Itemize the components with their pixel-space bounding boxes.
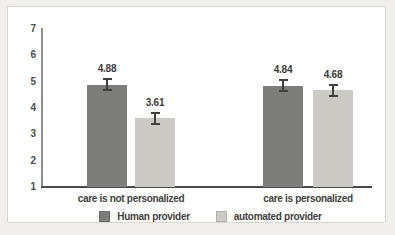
y-axis-tick-label: 4 <box>12 101 36 115</box>
error-bar <box>279 79 288 92</box>
legend-label: Human provider <box>117 211 189 222</box>
bar-value-label: 3.61 <box>133 97 177 108</box>
y-axis-tick-label: 3 <box>12 127 36 141</box>
y-axis-tick-label: 5 <box>12 75 36 89</box>
x-axis-category-label: care is personalized <box>218 193 395 204</box>
bar-value-label: 4.68 <box>311 69 355 80</box>
legend-label: automated provider <box>234 211 322 222</box>
bar-automated-provider-group1 <box>135 118 175 187</box>
error-bar <box>151 112 160 125</box>
bar-value-label: 4.84 <box>261 64 305 75</box>
error-bar <box>329 84 338 97</box>
y-axis-line <box>41 28 43 188</box>
y-axis-tick-label: 2 <box>12 154 36 168</box>
bar-value-label: 4.88 <box>85 63 129 74</box>
error-bar <box>103 78 112 91</box>
legend-item-automated-provider: automated provider <box>216 211 322 222</box>
legend-swatch <box>216 211 227 222</box>
legend-item-human-provider: Human provider <box>99 211 189 222</box>
chart-panel: 1234567care is not personalized4.883.61c… <box>7 6 386 223</box>
plot-area: 1234567care is not personalized4.883.61c… <box>8 7 385 222</box>
bar-human-provider-group2 <box>263 86 303 187</box>
bar-human-provider-group1 <box>87 85 127 187</box>
y-axis-tick-label: 1 <box>12 180 36 194</box>
y-axis-tick-label: 6 <box>12 48 36 62</box>
legend-swatch <box>99 211 110 222</box>
legend: Human providerautomated provider <box>8 208 385 224</box>
bar-automated-provider-group2 <box>313 90 353 187</box>
x-axis-category-label: care is not personalized <box>41 193 221 204</box>
y-axis-tick-label: 7 <box>12 22 36 36</box>
